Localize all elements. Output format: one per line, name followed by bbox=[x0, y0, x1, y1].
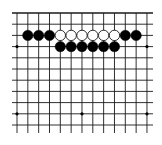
star-point bbox=[145, 45, 148, 48]
black-stone[interactable] bbox=[88, 41, 98, 51]
star-point bbox=[15, 45, 18, 48]
go-board-grid[interactable] bbox=[0, 0, 162, 145]
black-stone[interactable] bbox=[66, 41, 76, 51]
star-point bbox=[145, 112, 148, 115]
white-stone[interactable] bbox=[77, 30, 87, 40]
stones bbox=[23, 30, 142, 52]
black-stone[interactable] bbox=[120, 30, 130, 40]
black-stone[interactable] bbox=[33, 30, 43, 40]
white-stone[interactable] bbox=[98, 30, 108, 40]
black-stone[interactable] bbox=[44, 30, 54, 40]
star-point bbox=[15, 112, 18, 115]
black-stone[interactable] bbox=[23, 30, 33, 40]
white-stone[interactable] bbox=[109, 30, 119, 40]
black-stone[interactable] bbox=[131, 30, 141, 40]
black-stone[interactable] bbox=[109, 41, 119, 51]
black-stone[interactable] bbox=[77, 41, 87, 51]
black-stone[interactable] bbox=[98, 41, 108, 51]
white-stone[interactable] bbox=[88, 30, 98, 40]
white-stone[interactable] bbox=[66, 30, 76, 40]
star-point bbox=[80, 112, 83, 115]
white-stone[interactable] bbox=[55, 30, 65, 40]
black-stone[interactable] bbox=[55, 41, 65, 51]
go-board[interactable] bbox=[0, 0, 162, 145]
